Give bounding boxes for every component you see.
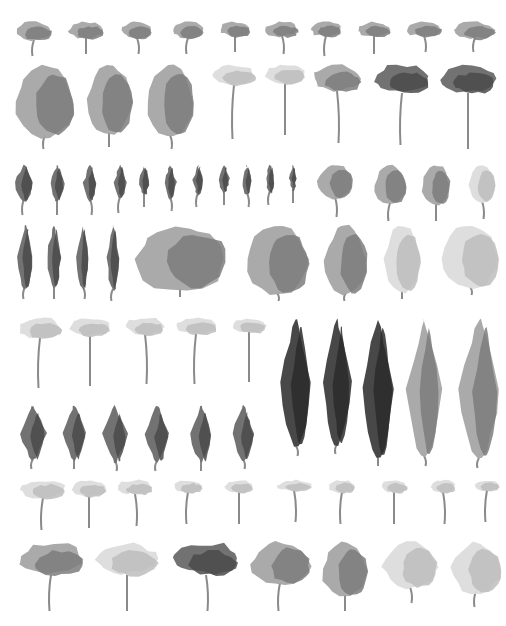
row-3-small-columnar-tree [266, 165, 274, 205]
row-3-small-columnar-tree [139, 165, 149, 207]
row-7-small-light-umbrella-tree [431, 480, 456, 524]
row-3-small-columnar-tree [83, 165, 97, 215]
row-4-tall-columnar-and-broad-tree [135, 226, 226, 297]
row-7-small-light-umbrella-tree [329, 480, 355, 524]
row-6-leaf-shaped-tree [63, 406, 86, 469]
row-2-large-tree [374, 65, 428, 145]
row-4-tall-columnar-and-broad-tree [442, 226, 499, 295]
row-5-umbrella-and-tall-cypress-tree [280, 319, 310, 456]
row-1-small-umbrella-tree [173, 22, 203, 55]
row-3-small-columnar-tree [15, 165, 33, 215]
row-4-tall-columnar-and-broad-tree [247, 226, 309, 301]
row-2-large-tree [265, 65, 305, 135]
row-3-small-columnar-tree [165, 165, 177, 211]
row-8-broad-crowns-tree [95, 542, 159, 611]
row-5-umbrella-and-tall-cypress-tree [20, 317, 62, 388]
row-8-broad-crowns-tree [19, 543, 83, 611]
row-6-leaf-shaped-tree [145, 406, 169, 471]
row-1-small-umbrella-tree [358, 22, 390, 54]
row-2-large-tree [314, 64, 361, 143]
row-2-large-tree [148, 65, 194, 150]
row-1-small-umbrella-tree [122, 22, 152, 55]
row-2-large-tree [16, 65, 75, 149]
row-3-small-columnar-tree [317, 165, 353, 217]
row-3-small-columnar-tree [374, 165, 406, 221]
trees-svg [0, 0, 506, 626]
row-1-small-umbrella-tree [221, 22, 250, 53]
row-4-tall-columnar-and-broad-tree [17, 225, 32, 299]
row-5-umbrella-and-tall-cypress-tree [69, 319, 110, 386]
row-3-small-columnar-tree [51, 165, 65, 215]
row-1-small-umbrella-tree [265, 22, 299, 55]
row-1-small-umbrella-tree [17, 21, 52, 56]
row-7-small-light-umbrella-tree [72, 481, 107, 529]
row-2-large-tree [212, 65, 256, 139]
row-8-broad-crowns-tree [381, 541, 438, 603]
row-1-small-umbrella-tree [454, 21, 496, 52]
row-7-small-light-umbrella-tree [224, 480, 252, 524]
row-7-small-light-umbrella-tree [382, 480, 408, 524]
row-3-small-columnar-tree [219, 165, 230, 205]
row-6-leaf-shaped-tree [233, 405, 254, 469]
row-5-umbrella-and-tall-cypress-tree [363, 320, 394, 466]
row-7-small-light-umbrella-tree [175, 481, 203, 524]
row-8-broad-crowns-tree [322, 542, 368, 611]
row-5-umbrella-and-tall-cypress-tree [126, 318, 165, 384]
row-6-leaf-shaped-tree [20, 406, 47, 469]
row-1-small-umbrella-tree [68, 21, 104, 54]
row-3-small-columnar-tree [114, 165, 127, 213]
row-5-umbrella-and-tall-cypress-tree [458, 318, 499, 468]
row-4-tall-columnar-and-broad-tree [76, 226, 88, 299]
row-6-leaf-shaped-tree [190, 406, 211, 471]
row-1-small-umbrella-tree [311, 22, 341, 57]
row-4-tall-columnar-and-broad-tree [324, 225, 368, 301]
row-2-large-tree [440, 65, 496, 149]
tree-illustration-sheet [0, 0, 506, 626]
row-5-umbrella-and-tall-cypress-tree [177, 318, 217, 385]
row-1-small-umbrella-tree [407, 22, 442, 53]
row-8-broad-crowns-tree [450, 542, 501, 608]
row-7-small-light-umbrella-tree [118, 480, 153, 526]
row-7-small-light-umbrella-tree [475, 481, 500, 522]
row-3-small-columnar-tree [289, 165, 297, 203]
row-5-umbrella-and-tall-cypress-tree [233, 319, 267, 382]
row-7-small-light-umbrella-tree [277, 480, 312, 522]
row-8-broad-crowns-tree [250, 541, 311, 611]
row-4-tall-columnar-and-broad-tree [107, 225, 120, 301]
row-3-small-columnar-tree [243, 165, 252, 207]
row-4-tall-columnar-and-broad-tree [48, 226, 62, 299]
row-6-leaf-shaped-tree [102, 405, 128, 471]
row-5-umbrella-and-tall-cypress-tree [406, 319, 443, 466]
row-7-small-light-umbrella-tree [20, 481, 65, 530]
row-3-small-columnar-tree [469, 165, 496, 219]
row-5-umbrella-and-tall-cypress-tree [323, 319, 352, 455]
row-3-small-columnar-tree [422, 165, 451, 221]
row-4-tall-columnar-and-broad-tree [384, 226, 421, 299]
row-2-large-tree [87, 65, 133, 147]
row-8-broad-crowns-tree [173, 543, 238, 611]
row-3-small-columnar-tree [192, 165, 203, 207]
